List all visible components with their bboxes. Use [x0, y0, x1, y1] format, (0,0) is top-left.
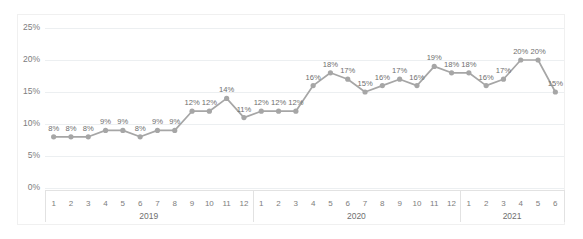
x-axis-group-label: 2021	[503, 211, 522, 221]
data-point-label: 8%	[48, 124, 59, 133]
x-axis-tick-label: 10	[412, 199, 421, 208]
data-point-marker	[68, 134, 73, 139]
x-axis-tick-labels: 123456789101112123456789101112123456	[51, 199, 558, 208]
y-axis-tick-label: 10%	[23, 118, 40, 128]
data-point-label: 17%	[392, 66, 407, 75]
data-point-label: 18%	[323, 60, 338, 69]
data-point-label: 12%	[271, 98, 286, 107]
data-point-label: 17%	[496, 66, 511, 75]
x-axis-group-label: 2020	[347, 211, 366, 221]
data-point-label: 8%	[83, 124, 94, 133]
data-point-marker	[86, 134, 91, 139]
data-point-marker	[501, 77, 506, 82]
data-point-marker	[276, 109, 281, 114]
x-axis-tick-label: 6	[553, 199, 558, 208]
data-point-label: 9%	[100, 117, 111, 126]
data-point-label: 8%	[65, 124, 76, 133]
x-axis-tick-label: 11	[430, 199, 439, 208]
data-point-marker	[207, 109, 212, 114]
x-axis-tick-label: 9	[190, 199, 195, 208]
series-line	[54, 60, 556, 137]
data-point-label: 16%	[479, 73, 494, 82]
x-axis-tick-label: 12	[447, 199, 456, 208]
x-axis-tick-label: 6	[138, 199, 143, 208]
x-axis-tick-label: 8	[173, 199, 178, 208]
data-point-marker	[535, 57, 540, 62]
data-point-marker	[432, 64, 437, 69]
data-point-marker	[172, 128, 177, 133]
data-point-label: 17%	[340, 66, 355, 75]
data-point-label: 18%	[444, 60, 459, 69]
data-point-marker	[328, 70, 333, 75]
data-point-marker	[51, 134, 56, 139]
data-point-marker	[155, 128, 160, 133]
data-point-marker	[259, 109, 264, 114]
data-point-label: 16%	[375, 73, 390, 82]
x-axis-tick-label: 7	[363, 199, 368, 208]
gridlines	[45, 29, 564, 189]
data-point-label: 11%	[237, 105, 252, 114]
x-axis-tick-label: 1	[467, 199, 472, 208]
data-point-marker	[120, 128, 125, 133]
data-point-label: 15%	[357, 79, 372, 88]
data-point-marker	[484, 83, 489, 88]
x-axis-tick-label: 10	[205, 199, 214, 208]
x-axis-tick-label: 9	[397, 199, 402, 208]
data-point-label: 12%	[202, 98, 217, 107]
data-point-label: 18%	[461, 60, 476, 69]
data-point-label: 12%	[254, 98, 269, 107]
data-point-marker	[224, 96, 229, 101]
line-chart: 0%5%10%15%20%25% 12345678910111212345678…	[0, 0, 583, 239]
data-point-marker	[518, 57, 523, 62]
x-axis-tick-label: 4	[311, 199, 316, 208]
data-point-marker	[553, 89, 558, 94]
data-point-marker	[380, 83, 385, 88]
x-axis-tick-label: 8	[380, 199, 385, 208]
x-axis-tick-label: 11	[222, 199, 231, 208]
x-axis-tick-label: 4	[519, 199, 524, 208]
data-point-marker	[311, 83, 316, 88]
data-point-marker	[103, 128, 108, 133]
x-axis-group-label: 2019	[139, 211, 158, 221]
data-point-marker	[397, 77, 402, 82]
data-point-marker	[414, 83, 419, 88]
y-axis-tick-label: 20%	[23, 54, 40, 64]
data-point-marker	[362, 89, 367, 94]
y-axis-tick-label: 0%	[28, 182, 41, 192]
x-axis-tick-label: 5	[328, 199, 333, 208]
chart-canvas: 0%5%10%15%20%25% 12345678910111212345678…	[0, 0, 583, 239]
y-axis-tick-label: 25%	[23, 22, 40, 32]
data-point-label: 20%	[513, 47, 528, 56]
y-axis-tick-label: 5%	[28, 150, 41, 160]
x-axis-tick-label: 1	[259, 199, 264, 208]
data-point-marker	[449, 70, 454, 75]
data-point-marker	[466, 70, 471, 75]
data-point-label: 19%	[427, 53, 442, 62]
data-point-label: 15%	[548, 79, 563, 88]
data-point-label: 9%	[152, 117, 163, 126]
data-point-label: 8%	[135, 124, 146, 133]
y-axis-tick-labels: 0%5%10%15%20%25%	[23, 22, 40, 192]
x-axis-tick-label: 5	[536, 199, 541, 208]
data-point-label: 16%	[306, 73, 321, 82]
data-point-marker	[189, 109, 194, 114]
x-axis-tick-label: 2	[484, 199, 489, 208]
x-axis-tick-label: 1	[51, 199, 56, 208]
x-axis-tick-label: 3	[294, 199, 299, 208]
x-axis-tick-label: 6	[346, 199, 351, 208]
data-point-label: 12%	[184, 98, 199, 107]
data-point-marker	[241, 115, 246, 120]
x-axis-tick-label: 7	[155, 199, 160, 208]
x-axis-tick-label: 3	[501, 199, 506, 208]
x-axis-tick-label: 12	[239, 199, 248, 208]
x-axis-tick-label: 5	[121, 199, 126, 208]
data-point-marker	[138, 134, 143, 139]
data-point-labels: 8%8%8%9%9%8%9%9%12%12%14%11%12%12%12%16%…	[48, 47, 563, 133]
data-point-label: 12%	[288, 98, 303, 107]
x-axis-group-labels: 201920202021	[139, 211, 521, 221]
data-point-marker	[293, 109, 298, 114]
data-point-label: 14%	[219, 85, 234, 94]
data-point-label: 9%	[169, 117, 180, 126]
data-point-label: 20%	[530, 47, 545, 56]
x-axis-tick-label: 2	[276, 199, 281, 208]
